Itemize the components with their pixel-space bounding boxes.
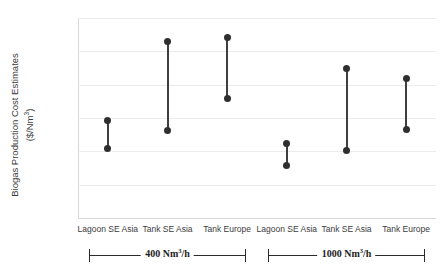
data-point-low [343,147,350,154]
data-point-high [224,34,231,41]
gridline [78,85,436,86]
group-bracket-label: 1000 Nm3/h [318,247,376,259]
data-point-high [164,38,171,45]
gridline [78,185,436,186]
data-point-high [104,117,111,124]
data-point-high [343,65,350,72]
group-bracket: 1000 Nm3/h [268,248,426,264]
x-axis-category-label: Tank SE Asia [142,224,192,234]
group-bracket-label: 400 Nm3/h [141,247,194,259]
biogas-cost-range-chart: Biogas Production Cost Estimates ($/Nm3)… [0,0,444,274]
x-axis-category-label: Lagoon SE Asia [257,224,318,234]
y-axis-title-line2: ($/Nm3) [21,109,36,142]
group-bracket: 400 Nm3/h [89,248,247,264]
data-point-low [224,95,231,102]
data-point-high [283,140,290,147]
data-point-low [403,126,410,133]
range-line [226,37,228,98]
range-line [346,68,348,151]
gridline [78,118,436,119]
bracket-cap-left [268,249,269,262]
y-axis-title: Biogas Production Cost Estimates ($/Nm3) [8,18,38,233]
x-axis-category-label: Lagoon SE Asia [78,224,139,234]
y-axis-title-line1: Biogas Production Cost Estimates [9,53,21,197]
bracket-cap-left [89,249,90,262]
range-line [405,79,407,130]
x-axis-category-label: Tank Europe [203,224,251,234]
data-point-high [403,75,410,82]
bracket-cap-right [424,249,425,262]
range-line [167,41,169,130]
data-point-low [164,127,171,134]
bracket-cap-right [245,249,246,262]
gridline [78,218,436,219]
x-axis-category-label: Tank SE Asia [321,224,371,234]
data-point-low [283,162,290,169]
gridline [78,51,436,52]
gridline [78,151,436,152]
gridline [78,18,436,19]
x-axis-category-label: Tank Europe [382,224,430,234]
plot-area [78,18,436,218]
